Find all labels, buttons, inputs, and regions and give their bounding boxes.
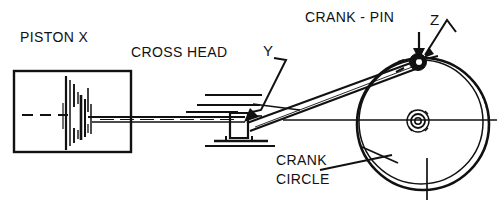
piston-rod [88,117,245,122]
crank-pin-label: CRANK - PIN [305,10,394,25]
crank-circle-label-line1: CRANK [276,153,327,168]
crank-circle [357,58,489,190]
pointer-label-z: Z [430,11,439,28]
crank-circle-label-line2: CIRCLE [276,172,330,187]
piston-label: PISTON X [20,30,88,45]
crank-circle-leader-line [320,147,398,170]
crank-hub [407,110,429,132]
z-leader-line [424,20,456,58]
cylinder-body [14,71,131,152]
y-leader-line [244,58,286,122]
piston-assembly [63,76,91,150]
cross-head-label: CROSS HEAD [131,45,228,60]
pointer-label-y: Y [263,42,273,59]
diagram-canvas: PISTON X CROSS HEAD CRANK - PIN CRANK CI… [0,0,499,210]
